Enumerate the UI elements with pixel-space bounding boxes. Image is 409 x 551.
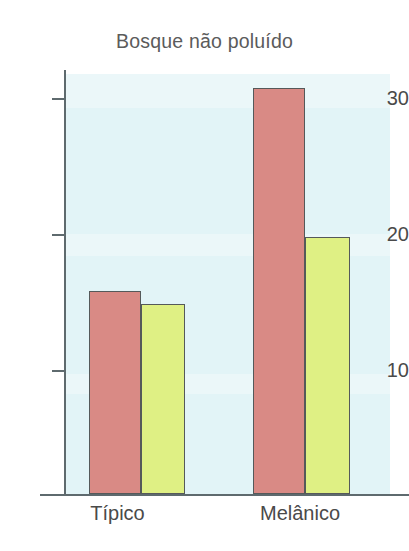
bar-melanico-series-2 — [305, 237, 350, 494]
y-tick-label-10: 10 — [363, 359, 409, 382]
plot-area — [66, 74, 390, 494]
chart-title: Bosque não poluído — [0, 30, 409, 53]
y-tick-label-30: 30 — [363, 87, 409, 110]
x-tick-label-melanico: Melânico — [235, 502, 365, 525]
chart-figure: Bosque não poluído 30 20 10 Típico Melân… — [0, 0, 409, 551]
y-tick-mark-20 — [52, 234, 66, 236]
y-tick-mark-30 — [52, 98, 66, 100]
x-axis-line — [40, 494, 409, 496]
bar-melanico-series-1 — [253, 88, 305, 494]
x-tick-label-typico: Típico — [60, 502, 175, 525]
y-tick-label-20: 20 — [363, 223, 409, 246]
bar-typico-series-2 — [141, 304, 185, 494]
bar-typico-series-1 — [89, 291, 141, 494]
y-tick-mark-10 — [52, 370, 66, 372]
y-axis-line — [64, 70, 66, 496]
plot-band — [66, 74, 390, 108]
